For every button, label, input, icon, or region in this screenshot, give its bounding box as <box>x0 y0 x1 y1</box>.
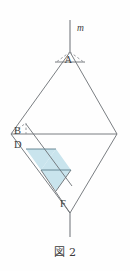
rhombus-edge-bottom-right <box>70 134 117 213</box>
geometry-diagram: m A B D F <box>0 0 130 271</box>
rhombus-edge-top-left <box>11 52 70 134</box>
figure-caption: 図 2 <box>0 243 130 259</box>
label-b: B <box>14 125 21 136</box>
label-f: F <box>60 198 66 209</box>
figure-container: m A B D F 図 2 <box>0 0 130 271</box>
rhombus-edge-top-right <box>70 52 117 134</box>
rhombus-outline <box>11 52 117 213</box>
label-d: D <box>14 139 22 150</box>
label-m: m <box>77 23 84 33</box>
dashed-a-right <box>70 52 85 63</box>
label-a: A <box>65 54 73 65</box>
